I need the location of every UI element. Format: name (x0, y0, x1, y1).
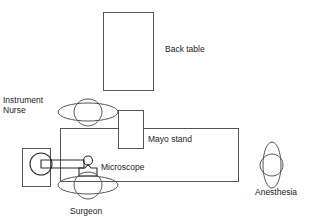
instrument-nurse-person-icon (58, 99, 118, 126)
instrument-nurse-label-line2: Nurse (3, 105, 26, 115)
microscope-eyepiece-icon (79, 165, 97, 177)
mayo-stand-shape-fill (119, 111, 144, 149)
anesthesia-label: Anesthesia (255, 187, 297, 197)
microscope-label: Microscope (101, 162, 145, 172)
surgeon-person-icon (58, 172, 118, 199)
instrument-nurse-label-line1: Instrument (3, 95, 44, 105)
surgeon-label: Surgeon (70, 206, 102, 216)
microscope-head-icon (84, 156, 93, 165)
back-table-shape (104, 13, 154, 91)
anesthesia-person-icon (260, 142, 283, 188)
mayo-stand-label: Mayo stand (148, 134, 192, 144)
operating-room-diagram: Back table Mayo stand Microscope Instrum… (0, 0, 312, 219)
back-table-label: Back table (165, 44, 205, 54)
